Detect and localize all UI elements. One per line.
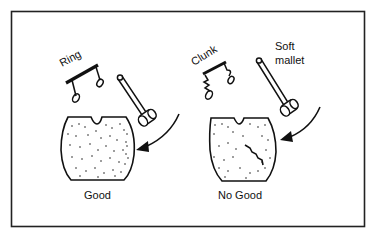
ring-label: Ring	[57, 48, 83, 69]
soft-mallet-label-line1: Soft	[275, 40, 295, 52]
wheel-cracked-icon	[210, 118, 276, 181]
soft-mallet-label-line2: mallet	[275, 54, 304, 66]
no-good-panel: Clunk Soft mallet	[189, 40, 320, 201]
no-good-caption: No Good	[218, 189, 262, 201]
music-note-icon	[66, 65, 104, 103]
soft-mallet-icon	[256, 58, 299, 118]
frame-border	[12, 12, 365, 227]
dull-sound-icon	[203, 62, 235, 100]
clunk-label: Clunk	[189, 42, 220, 67]
wheel-tap-test-diagram: Ring	[0, 0, 374, 237]
good-panel: Ring	[57, 48, 179, 201]
wheel-good-icon	[61, 117, 134, 180]
good-caption: Good	[84, 189, 111, 201]
